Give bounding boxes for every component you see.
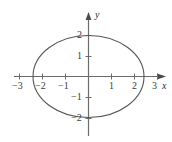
y-tick-label--1: −1 — [71, 92, 82, 102]
x-tick-label--1: −1 — [58, 81, 69, 91]
coordinate-plane-svg — [0, 0, 172, 142]
x-tick-label-3: 3 — [152, 81, 157, 91]
ellipse-graph-figure: −3 −2 −1 1 2 3 2 1 −1 −2 y x — [0, 0, 172, 142]
x-tick-label--2: −2 — [35, 81, 46, 91]
x-tick-label--3: −3 — [12, 81, 23, 91]
y-tick-label-1: 1 — [77, 51, 82, 61]
y-axis-arrowhead — [86, 12, 92, 20]
x-tick-label-1: 1 — [109, 81, 114, 91]
x-tick-label-2: 2 — [132, 81, 137, 91]
y-axis-label: y — [95, 10, 99, 20]
x-axis-label: x — [162, 81, 166, 91]
y-tick-label-2: 2 — [77, 30, 82, 40]
y-tick-label--2: −2 — [71, 113, 82, 123]
x-axis-arrowhead — [157, 73, 166, 79]
